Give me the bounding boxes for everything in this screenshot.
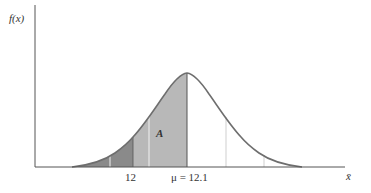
normal-distribution-chart [0,0,371,193]
left-tail-shaded-region [72,137,133,167]
area-a-shaded-region [133,73,187,167]
x-axis-label: x̄ [346,170,351,182]
tick-label-12: 12 [125,171,136,183]
area-a-label: A [156,127,163,139]
tick-label-mean: μ = 12.1 [171,171,208,183]
y-axis-label: f(x) [9,12,24,24]
